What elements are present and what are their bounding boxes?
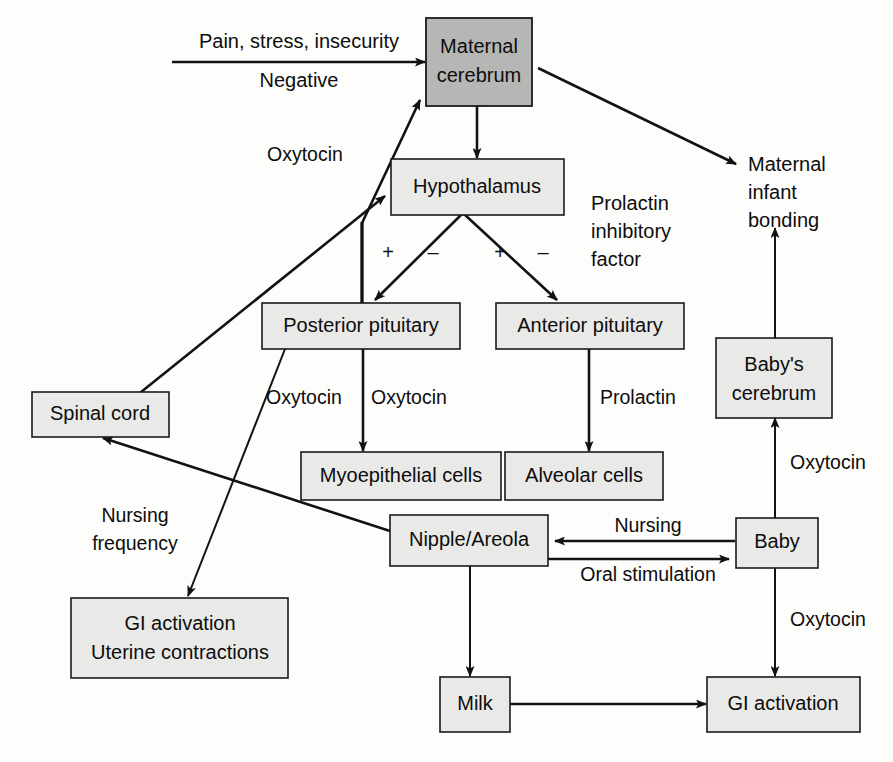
edge-label-oxytocin-baby-down: Oxytocin [790, 608, 866, 630]
node-baby-label: Baby [754, 530, 800, 552]
sign-posterior-minus: – [427, 241, 439, 263]
edge-label-oxytocin-baby-up: Oxytocin [790, 451, 866, 473]
node-gi-uterine[interactable]: GI activation Uterine contractions [71, 598, 288, 678]
label-maternal-infant-bonding-3: bonding [748, 209, 819, 231]
node-maternal-cerebrum-label-2: cerebrum [437, 64, 521, 86]
node-babys-cerebrum-label-2: cerebrum [732, 382, 816, 404]
node-anterior-pituitary-label: Anterior pituitary [517, 314, 663, 336]
label-prolactin-inhibitory-2: inhibitory [591, 220, 671, 242]
node-hypothalamus[interactable]: Hypothalamus [391, 159, 564, 215]
node-baby[interactable]: Baby [736, 518, 818, 568]
node-spinal-cord-label: Spinal cord [50, 402, 150, 424]
node-babys-cerebrum-label-1: Baby's [744, 353, 803, 375]
node-anterior-pituitary[interactable]: Anterior pituitary [496, 303, 684, 349]
node-nipple-areola[interactable]: Nipple/Areola [390, 515, 548, 566]
edge-label-oxytocin-pp-left: Oxytocin [266, 386, 342, 408]
node-posterior-pituitary[interactable]: Posterior pituitary [262, 303, 460, 349]
node-gi-uterine-label-2: Uterine contractions [91, 641, 269, 663]
node-gi-activation-label: GI activation [727, 692, 838, 714]
edge-label-oral-stimulation: Oral stimulation [580, 563, 715, 585]
lactation-flow-diagram: Maternal cerebrum Hypothalamus Posterior… [0, 0, 893, 762]
sign-posterior-plus: + [382, 241, 394, 263]
node-babys-cerebrum[interactable]: Baby's cerebrum [716, 338, 832, 418]
edge-label-nursing-frequency-2: frequency [92, 532, 178, 554]
node-gi-activation[interactable]: GI activation [707, 677, 860, 732]
label-maternal-infant-bonding-1: Maternal [748, 153, 826, 175]
diagram-canvas: Maternal cerebrum Hypothalamus Posterior… [0, 0, 893, 762]
node-alveolar-cells-label: Alveolar cells [525, 464, 643, 486]
label-negative: Negative [260, 69, 339, 91]
sign-anterior-plus: + [494, 241, 506, 263]
edge-label-prolactin: Prolactin [600, 386, 676, 408]
node-hypothalamus-label: Hypothalamus [413, 175, 541, 197]
node-spinal-cord[interactable]: Spinal cord [32, 392, 169, 437]
edge-label-nursing: Nursing [614, 514, 681, 536]
node-maternal-cerebrum[interactable]: Maternal cerebrum [426, 18, 532, 106]
node-posterior-pituitary-label: Posterior pituitary [283, 314, 439, 336]
label-pain-stress-insecurity: Pain, stress, insecurity [199, 30, 399, 52]
node-milk[interactable]: Milk [440, 677, 510, 732]
node-maternal-cerebrum-label-1: Maternal [440, 35, 518, 57]
node-alveolar-cells[interactable]: Alveolar cells [505, 452, 663, 500]
edge-maternal-cerebrum-to-bonding [538, 68, 736, 164]
edge-label-oxytocin-to-cerebrum: Oxytocin [267, 143, 343, 165]
edge-label-nursing-frequency-1: Nursing [101, 504, 168, 526]
label-maternal-infant-bonding-2: infant [748, 181, 797, 203]
sign-anterior-minus: – [537, 241, 549, 263]
node-milk-label: Milk [457, 692, 494, 714]
node-myoepithelial-cells-label: Myoepithelial cells [320, 464, 482, 486]
label-prolactin-inhibitory-3: factor [591, 248, 641, 270]
node-nipple-areola-label: Nipple/Areola [409, 528, 530, 550]
edge-label-oxytocin-pp-right: Oxytocin [371, 386, 447, 408]
node-myoepithelial-cells[interactable]: Myoepithelial cells [301, 452, 501, 500]
label-prolactin-inhibitory-1: Prolactin [591, 192, 669, 214]
node-gi-uterine-label-1: GI activation [124, 612, 235, 634]
